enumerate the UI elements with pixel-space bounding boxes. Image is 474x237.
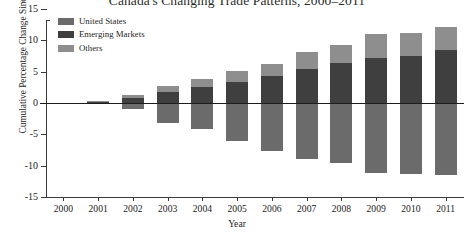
x-tick-2006 [272,197,273,201]
x-tick-2004 [202,197,203,201]
bar-segment-others-2009[interactable] [365,34,387,58]
y-tick-label-5: 5 [12,67,38,77]
bar-group-2011[interactable] [435,20,457,197]
x-tick-2007 [307,197,308,201]
bar-segment-emerging-markets-2005[interactable] [226,82,248,103]
x-axis-title: Year [0,218,474,229]
bar-group-2003[interactable] [157,20,179,197]
y-tick--15 [41,197,47,198]
bar-group-2005[interactable] [226,20,248,197]
bar-segment-emerging-markets-2007[interactable] [296,69,318,103]
bar-segment-united-states-2004[interactable] [191,103,213,129]
legend-label: Emerging Markets [79,30,145,39]
legend-item-others[interactable]: Others [58,44,145,52]
legend-swatch-icon [58,45,74,52]
bar-segment-united-states-2005[interactable] [226,103,248,141]
bar-segment-united-states-2003[interactable] [157,103,179,123]
x-tick-2011 [446,197,447,201]
bar-segment-others-2002[interactable] [122,95,144,98]
y-tick-label--10: -10 [12,161,38,171]
x-tick-2000 [63,197,64,201]
legend-swatch-icon [58,18,74,25]
x-tick-2003 [168,197,169,201]
bar-group-2009[interactable] [365,20,387,197]
x-tick-2001 [98,197,99,201]
bar-segment-emerging-markets-2003[interactable] [157,92,179,103]
x-tick-label-2011: 2011 [426,203,466,214]
bar-group-2010[interactable] [400,20,422,197]
x-axis-line [46,197,464,198]
chart-legend: United StatesEmerging MarketsOthers [58,17,145,58]
bar-segment-united-states-2010[interactable] [400,103,422,174]
bar-segment-emerging-markets-2011[interactable] [435,50,457,103]
x-tick-2009 [376,197,377,201]
legend-label: United States [79,17,126,26]
y-tick-label-15: 15 [12,4,38,14]
bar-segment-others-2001[interactable] [87,101,109,102]
legend-label: Others [79,44,102,53]
bar-group-2006[interactable] [261,20,283,197]
bar-segment-united-states-2007[interactable] [296,103,318,159]
y-tick-15 [41,9,47,10]
y-tick-label--5: -5 [12,129,38,139]
bar-segment-others-2007[interactable] [296,52,318,69]
y-tick-label-10: 10 [12,35,38,45]
bar-group-2008[interactable] [330,20,352,197]
bar-segment-united-states-2009[interactable] [365,103,387,173]
bar-segment-united-states-2008[interactable] [330,103,352,163]
zero-reference-line [40,103,464,104]
bar-segment-united-states-2006[interactable] [261,103,283,151]
bar-segment-others-2006[interactable] [261,64,283,76]
legend-item-united-states[interactable]: United States [58,17,145,25]
chart-title: Canada's Changing Trade Patterns, 2000–2… [0,0,474,9]
x-tick-2010 [411,197,412,201]
bar-segment-emerging-markets-2004[interactable] [191,87,213,103]
bar-segment-others-2010[interactable] [400,33,422,56]
bar-segment-united-states-2011[interactable] [435,103,457,175]
legend-swatch-icon [58,31,74,38]
bar-segment-others-2004[interactable] [191,79,213,87]
chart-root: Canada's Changing Trade Patterns, 2000–2… [0,0,474,237]
bar-segment-emerging-markets-2008[interactable] [330,63,352,103]
y-tick-label--15: -15 [12,192,38,202]
x-tick-2002 [133,197,134,201]
bar-segment-others-2003[interactable] [157,86,179,92]
bar-segment-emerging-markets-2006[interactable] [261,76,283,103]
bar-segment-others-2005[interactable] [226,71,248,82]
bar-segment-emerging-markets-2009[interactable] [365,58,387,103]
bar-segment-others-2008[interactable] [330,45,352,63]
legend-item-emerging-markets[interactable]: Emerging Markets [58,31,145,39]
x-tick-2005 [237,197,238,201]
bar-segment-others-2011[interactable] [435,27,457,50]
bar-group-2007[interactable] [296,20,318,197]
x-tick-2008 [341,197,342,201]
y-tick-label-0: 0 [12,98,38,108]
bar-segment-emerging-markets-2010[interactable] [400,56,422,103]
bar-group-2004[interactable] [191,20,213,197]
